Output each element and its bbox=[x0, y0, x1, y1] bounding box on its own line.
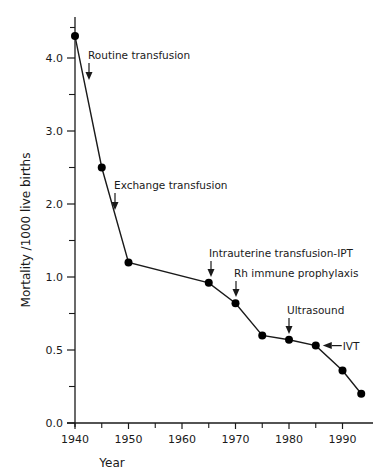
data-point-marker bbox=[232, 299, 240, 307]
annotation-label: Intrauterine transfusion-IPT bbox=[209, 247, 354, 259]
mortality-line-chart: 0.00.51.02.03.04.0 194019501960197019801… bbox=[0, 0, 388, 474]
arrow-down-icon bbox=[286, 326, 293, 334]
y-axis-ticks: 0.00.51.02.03.04.0 bbox=[46, 28, 76, 431]
data-point-marker bbox=[339, 366, 347, 374]
series-line bbox=[75, 36, 361, 394]
y-tick-label: 2.0 bbox=[46, 198, 64, 211]
data-point-marker bbox=[357, 390, 365, 398]
annotations: Routine transfusionExchange transfusionI… bbox=[86, 49, 361, 352]
data-series bbox=[71, 32, 365, 398]
y-tick-label: 1.0 bbox=[46, 271, 64, 284]
x-tick-label: 1950 bbox=[115, 433, 143, 446]
data-point-marker bbox=[125, 258, 133, 266]
annotation-label: Exchange transfusion bbox=[114, 179, 227, 191]
x-axis-ticks: 194019501960197019801990 bbox=[61, 423, 357, 446]
arrow-down-icon bbox=[86, 72, 93, 80]
annotation-label: IVT bbox=[343, 340, 360, 352]
x-tick-label: 1970 bbox=[222, 433, 250, 446]
arrow-left-icon bbox=[323, 342, 332, 349]
data-point-marker bbox=[312, 342, 320, 350]
data-point-marker bbox=[285, 336, 293, 344]
x-tick-label: 1960 bbox=[168, 433, 196, 446]
annotation-label: Ultrasound bbox=[287, 304, 344, 316]
x-tick-label: 1980 bbox=[275, 433, 303, 446]
y-tick-label: 0.0 bbox=[46, 417, 64, 430]
y-axis-title: Mortality /1000 live births bbox=[19, 153, 33, 308]
arrow-down-icon bbox=[208, 269, 215, 277]
y-tick-label: 3.0 bbox=[46, 125, 64, 138]
arrow-down-icon bbox=[233, 289, 240, 297]
annotation-label: Routine transfusion bbox=[88, 49, 190, 61]
axes bbox=[67, 17, 373, 427]
data-point-marker bbox=[71, 32, 79, 40]
y-tick-label: 4.0 bbox=[46, 52, 64, 65]
x-tick-label: 1940 bbox=[61, 433, 89, 446]
annotation-label: Rh immune prophylaxis bbox=[234, 267, 358, 279]
x-axis-title: Year bbox=[98, 456, 124, 470]
data-point-marker bbox=[98, 164, 106, 172]
data-point-marker bbox=[205, 279, 213, 287]
data-point-marker bbox=[258, 331, 266, 339]
x-tick-label: 1990 bbox=[329, 433, 357, 446]
y-tick-label: 0.5 bbox=[46, 344, 64, 357]
